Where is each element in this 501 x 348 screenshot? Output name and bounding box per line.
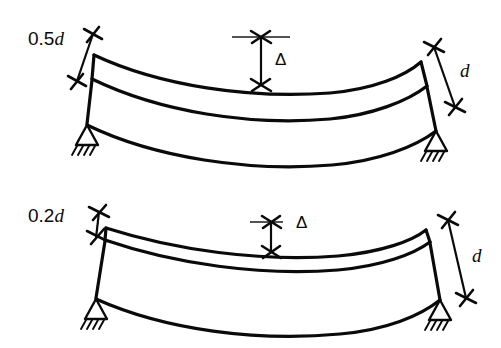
support-triangle	[425, 131, 447, 151]
lower-left-column	[96, 241, 105, 298]
upper-left-column	[87, 80, 92, 124]
support-hatch	[433, 152, 438, 161]
lower-beam-bottom-chord	[96, 299, 440, 336]
d-dimension-line	[434, 47, 455, 107]
upper-beam-left-endcap	[92, 55, 94, 79]
upper-delta-label: Δ	[275, 50, 286, 69]
support-triangle	[429, 300, 451, 320]
support-hatch	[81, 320, 86, 329]
support-hatch	[437, 321, 442, 330]
dimension-tick-bottom	[449, 99, 462, 115]
upper-right-column	[427, 87, 436, 131]
dimension-tick-top	[428, 39, 441, 55]
support-hatch	[78, 146, 83, 155]
figure-canvas: 0.5d Δ d 0.2d Δ d	[0, 0, 501, 348]
upper-beam-bottom-chord	[87, 125, 436, 167]
dimension-tick-bottom	[71, 74, 83, 89]
lower-delta-label: Δ	[296, 213, 307, 232]
upper-depth-label-value: 0.5	[28, 28, 54, 49]
dimension-tick-top	[93, 205, 106, 220]
lower-right-column	[430, 243, 440, 300]
support-hatch	[99, 320, 104, 329]
support-hatch	[84, 146, 89, 155]
support-hatch	[427, 152, 432, 161]
support-hatch	[421, 152, 426, 161]
upper-beam-right-endcap	[421, 62, 427, 86]
support-hatch	[93, 320, 98, 329]
lower-depth-label-value: 0.2	[28, 205, 54, 226]
support-hatch	[87, 320, 92, 329]
lower-right-pin-support	[425, 300, 451, 330]
beam-deflection-figure: 0.5d Δ d 0.2d Δ d	[0, 0, 501, 348]
lower-beam-left-endcap	[105, 228, 106, 240]
support-hatch	[439, 152, 444, 161]
support-hatch	[90, 146, 95, 155]
upper-d-label: d	[460, 60, 470, 81]
support-hatch	[443, 321, 448, 330]
upper-right-pin-support	[421, 131, 447, 161]
lower-depth-label-unit: d	[54, 205, 64, 226]
support-hatch	[72, 146, 77, 155]
dimension-tick-bottom	[460, 290, 473, 306]
lower-d-dimension	[438, 212, 476, 306]
d-dimension-line	[448, 220, 466, 298]
upper-depth-label-unit: d	[54, 28, 64, 49]
lower-d-label: d	[472, 245, 482, 266]
support-hatch	[425, 321, 430, 330]
upper-diagram	[68, 27, 465, 167]
dimension-tick-top	[87, 27, 99, 42]
lower-diagram	[81, 205, 476, 336]
lower-deflection-dimension	[250, 216, 283, 258]
lower-depth-label: 0.2d	[28, 205, 64, 226]
lower-beam-right-endcap	[426, 230, 430, 242]
depth-dimension-line	[77, 34, 93, 81]
support-hatch	[431, 321, 436, 330]
upper-depth-label: 0.5d	[28, 28, 64, 49]
